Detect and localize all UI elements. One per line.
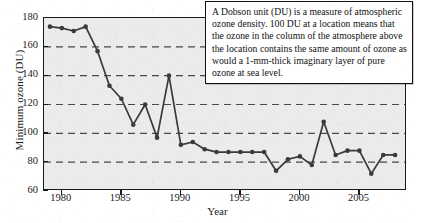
y-tick-mark <box>43 104 48 105</box>
data-point <box>381 153 386 158</box>
x-tick-mark <box>61 190 62 195</box>
x-tick-mark <box>180 190 181 195</box>
data-point <box>83 24 88 29</box>
y-tick-mark <box>43 132 48 133</box>
y-tick-mark <box>43 17 48 18</box>
data-point <box>262 150 267 155</box>
data-point <box>298 154 303 159</box>
data-point <box>309 163 314 168</box>
data-point <box>214 150 219 155</box>
data-point <box>357 148 362 153</box>
x-tick-mark <box>120 190 121 195</box>
data-point <box>286 157 291 162</box>
data-point <box>333 153 338 158</box>
data-point <box>71 29 76 34</box>
y-tick-mark <box>43 190 48 191</box>
x-tick-mark <box>358 190 359 195</box>
x-axis-title-text: Year <box>207 205 227 217</box>
data-point <box>202 147 207 152</box>
data-point <box>167 73 172 78</box>
y-tick-mark <box>43 75 48 76</box>
data-point <box>95 49 100 54</box>
data-point <box>60 26 65 31</box>
ozone-figure: Minimum ozone (DU) 6080100120140160180 1… <box>0 0 421 223</box>
data-point <box>345 148 350 153</box>
data-point <box>250 150 255 155</box>
data-point <box>179 143 184 148</box>
x-axis-title: Year <box>0 205 421 217</box>
data-point <box>48 24 53 29</box>
data-point <box>155 135 160 140</box>
x-tick-mark <box>299 190 300 195</box>
data-point <box>143 102 148 107</box>
data-point <box>107 83 112 88</box>
y-tick-mark <box>43 46 48 47</box>
data-point <box>131 122 136 127</box>
y-tick-mark <box>43 161 48 162</box>
data-point <box>190 140 195 145</box>
dobson-unit-annotation: A Dobson unit (DU) is a measure of atmos… <box>205 1 413 84</box>
data-point <box>321 120 326 125</box>
data-point <box>369 171 374 176</box>
data-point <box>393 153 398 158</box>
data-point <box>226 150 231 155</box>
data-point <box>238 150 243 155</box>
data-point <box>119 96 124 101</box>
data-point <box>274 169 279 174</box>
x-tick-mark <box>239 190 240 195</box>
